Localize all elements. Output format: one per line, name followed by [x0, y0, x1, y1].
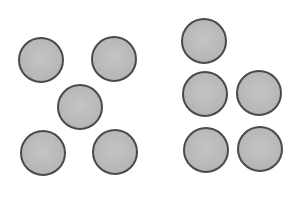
circle-shape — [182, 71, 228, 117]
right-circle-group — [0, 0, 306, 197]
circle-shape — [237, 126, 283, 172]
circle-shape — [181, 18, 227, 64]
circle-shape — [236, 70, 282, 116]
circle-shape — [183, 127, 229, 173]
